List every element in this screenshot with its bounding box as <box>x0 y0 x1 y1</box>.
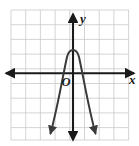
y-axis-label: y <box>78 11 86 26</box>
graph-canvas: y x O <box>0 0 139 146</box>
parabola-figure: y x O <box>0 0 139 146</box>
origin-label: O <box>62 75 71 89</box>
x-axis-label: x <box>128 72 136 87</box>
